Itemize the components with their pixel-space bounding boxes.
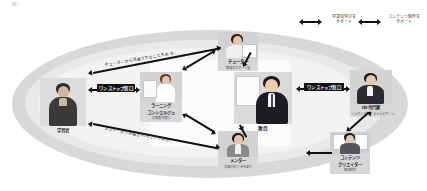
arrowhead-top-note-2-right bbox=[377, 19, 381, 25]
learner-photo bbox=[40, 78, 86, 126]
arrowhead-top-note-1-left bbox=[299, 19, 303, 25]
arrowhead-top-note-2-left bbox=[358, 19, 362, 25]
corner-note: 図1 bbox=[12, 1, 19, 7]
creator-photo bbox=[330, 132, 370, 154]
concierge-caption: ラーニング コンシェルジュ 学習者の窓口 bbox=[140, 102, 182, 122]
concierge-label-line2: コンシェルジュ bbox=[141, 110, 181, 116]
diagram-canvas: 図1 学習者 ラーニング コンシェルジュ 学習者の窓口 bbox=[0, 0, 427, 191]
teacher-photo bbox=[234, 72, 292, 124]
top-note-2-line2: サポート bbox=[396, 19, 412, 24]
person-card-mentor: メンター 学習の気づきを促す bbox=[218, 131, 258, 170]
creator-caption: コンテンツ クリエイター 教材制作 bbox=[330, 154, 370, 174]
top-note-content-support: コンテンツ制作を サポート bbox=[382, 14, 426, 25]
arrowhead-right-onestop-l bbox=[136, 87, 140, 93]
id-expert-photo bbox=[350, 70, 392, 104]
creator-sublabel: 教材制作 bbox=[331, 168, 369, 173]
tutor-sublabel: 教員のサポート役 bbox=[219, 66, 257, 71]
concierge-photo bbox=[140, 72, 182, 102]
arrowhead-right-onestop-r bbox=[346, 86, 350, 92]
top-note-1-line2: サポート bbox=[336, 19, 352, 24]
person-card-creator: コンテンツ クリエイター 教材制作 bbox=[330, 132, 370, 174]
tutor-caption: チューター 教員のサポート役 bbox=[218, 58, 258, 71]
person-card-teacher: 教員 bbox=[234, 72, 292, 131]
concierge-sublabel: 学習者の窓口 bbox=[141, 116, 181, 121]
tutor-photo bbox=[218, 32, 258, 58]
person-card-learner: 学習者 bbox=[40, 78, 86, 133]
person-card-concierge: ラーニング コンシェルジュ 学習者の窓口 bbox=[140, 72, 182, 122]
mentor-sublabel: 学習の気づきを促す bbox=[219, 165, 257, 170]
mentor-caption: メンター 学習の気づきを促す bbox=[218, 157, 258, 170]
bar-onestop-left: ワンストップ窓口 bbox=[97, 84, 135, 92]
arrowhead-top-note-1-right bbox=[318, 19, 322, 25]
mentor-photo bbox=[218, 131, 258, 157]
person-card-tutor: チューター 教員のサポート役 bbox=[218, 32, 258, 71]
learner-label: 学習者 bbox=[40, 127, 86, 133]
arrow-creator-left bbox=[310, 152, 332, 154]
bar-onestop-right: ワンストップ窓口 bbox=[304, 83, 344, 91]
